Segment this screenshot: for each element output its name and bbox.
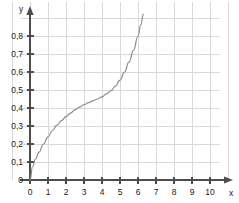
y-tick-label: 0,2 xyxy=(11,139,23,149)
y-tick-label: 0 xyxy=(18,175,23,185)
y-tick-label: 0,7 xyxy=(11,49,23,59)
x-tick-label: 0 xyxy=(28,187,33,197)
y-tick-label: 0,5 xyxy=(11,85,23,95)
x-tick-label: 7 xyxy=(154,187,159,197)
x-tick-label: 1 xyxy=(46,187,51,197)
y-tick-label: 0,1 xyxy=(11,157,23,167)
x-tick-label: 8 xyxy=(172,187,177,197)
x-tick-label: 5 xyxy=(118,187,123,197)
x-tick-label: 6 xyxy=(136,187,141,197)
sigmoid-curve-chart: 012345678910 00,10,20,30,40,50,60,70,8 x… xyxy=(0,0,239,203)
y-tick-label: 0,3 xyxy=(11,121,23,131)
y-tick-label: 0,6 xyxy=(11,67,23,77)
x-tick-label: 2 xyxy=(64,187,69,197)
x-tick-label: 3 xyxy=(82,187,87,197)
y-axis-tick-labels: 00,10,20,30,40,50,60,70,8 xyxy=(11,31,23,185)
chart-container: 012345678910 00,10,20,30,40,50,60,70,8 x… xyxy=(0,0,239,203)
y-tick-label: 0,8 xyxy=(11,31,23,41)
x-tick-label: 4 xyxy=(100,187,105,197)
x-tick-label: 10 xyxy=(205,187,215,197)
x-tick-label: 9 xyxy=(190,187,195,197)
y-tick-label: 0,4 xyxy=(11,103,23,113)
